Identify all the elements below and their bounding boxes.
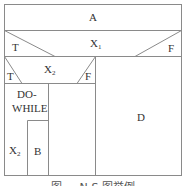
dowhile-label-line1: DO-: [17, 89, 37, 100]
x2-condition-label: X2: [44, 64, 55, 79]
dowhile-condition-label: X2: [9, 145, 20, 160]
x2-false-label: F: [85, 71, 91, 82]
x1-subscript: 1: [98, 43, 102, 51]
x2-subscript: 2: [52, 69, 56, 77]
dowhile-body-label: B: [34, 146, 41, 157]
block-a-label: A: [89, 12, 97, 23]
x2-text: X: [44, 63, 52, 75]
block-d-label: D: [137, 112, 145, 123]
figure-caption: 图 ... N-S 图举例: [0, 178, 186, 186]
x2-true-label: T: [7, 71, 14, 82]
dowhile-label-line2: WHILE: [12, 103, 47, 114]
dowhile-cond-text: X: [9, 144, 17, 156]
x1-true-label: T: [12, 42, 19, 53]
x1-false-label: F: [168, 43, 174, 54]
x1-false-diagonal: [135, 31, 182, 57]
x1-condition-label: X1: [90, 38, 101, 53]
dowhile-cond-subscript: 2: [17, 150, 21, 158]
x1-text: X: [90, 37, 98, 49]
